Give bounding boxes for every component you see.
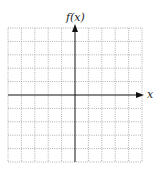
y-axis [72, 24, 78, 162]
x-axis-arrow-icon [136, 92, 144, 98]
x-axis-label: x [147, 88, 154, 101]
x-axis [8, 92, 144, 98]
coordinate-grid: f(x) x [0, 0, 158, 171]
y-axis-label: f(x) [65, 11, 85, 24]
